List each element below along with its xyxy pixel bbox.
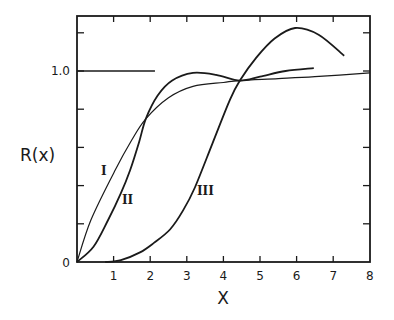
x-tick-label: 5 [256, 269, 264, 283]
x-tick-label: 7 [329, 269, 337, 283]
y-axis-label: R(x) [20, 145, 55, 165]
origin-label: 0 [62, 256, 70, 270]
x-tick-label: 8 [366, 269, 374, 283]
curve-label-III: III [197, 184, 214, 198]
curves [77, 28, 370, 262]
curve-I [77, 73, 370, 262]
curve-label-II: II [122, 193, 134, 207]
chart: 12345678 1.0 0 R(x) X I II III [0, 0, 394, 320]
x-tick-label: 2 [146, 269, 154, 283]
x-tick-label: 1 [110, 269, 118, 283]
x-tick-label: 3 [183, 269, 191, 283]
plot-frame [77, 16, 370, 262]
x-tick-label: 6 [293, 269, 301, 283]
x-axis-label: X [217, 288, 229, 308]
y-tick-label-1-0: 1.0 [51, 64, 70, 78]
curve-II [77, 68, 314, 262]
x-tick-label: 4 [220, 269, 228, 283]
x-axis-ticks: 12345678 [110, 16, 374, 283]
curve-III [105, 28, 344, 262]
curve-label-I: I [101, 164, 107, 178]
